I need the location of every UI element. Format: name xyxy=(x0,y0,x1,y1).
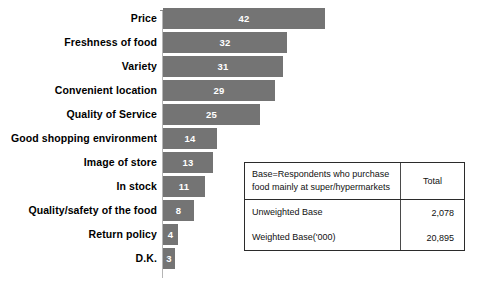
bar-value-label: 29 xyxy=(214,86,225,96)
bar: 8 xyxy=(163,200,194,221)
bar-value-label: 11 xyxy=(179,182,189,192)
bar-row: Quality of Service 25 xyxy=(0,104,483,128)
bar-track: 32 xyxy=(163,32,483,53)
bar-value-label: 13 xyxy=(183,158,194,168)
bar-row: Good shopping environment 14 xyxy=(0,128,483,152)
category-label: Variety xyxy=(0,56,157,77)
category-label: Freshness of food xyxy=(0,32,157,53)
bar: 14 xyxy=(163,128,217,149)
bar-value-label: 14 xyxy=(185,134,196,144)
base-table-header-label: Base=Respondents who purchase food mainl… xyxy=(245,163,401,199)
base-table-row-label: Unweighted Base xyxy=(245,200,401,225)
category-label: In stock xyxy=(0,176,157,197)
base-table-header-line2: food mainly at super/hypermarkets xyxy=(252,181,396,194)
base-table-row-value: 2,078 xyxy=(401,200,464,225)
bar-value-label: 42 xyxy=(239,14,250,24)
bar-chart-figure: Price 42 Freshness of food 32 Variety 31 xyxy=(0,0,483,285)
bar: 4 xyxy=(163,224,178,245)
category-label: Return policy xyxy=(0,224,157,245)
bar-value-label: 31 xyxy=(218,62,229,72)
base-table: Base=Respondents who purchase food mainl… xyxy=(244,162,465,251)
category-label: Quality/safety of the food xyxy=(0,200,157,221)
base-table-header-line1: Base=Respondents who purchase xyxy=(252,168,396,181)
bar-value-label: 25 xyxy=(206,110,217,120)
base-table-row: Weighted Base('000) 20,895 xyxy=(245,225,464,250)
bar-value-label: 8 xyxy=(176,206,181,216)
bar-value-label: 3 xyxy=(166,254,171,264)
category-label: Quality of Service xyxy=(0,104,157,125)
bar: 3 xyxy=(163,248,175,269)
category-label: D.K. xyxy=(0,248,157,269)
category-label: Convenient location xyxy=(0,80,157,101)
bar-track: 25 xyxy=(163,104,483,125)
category-label: Good shopping environment xyxy=(0,128,157,149)
bar-track: 14 xyxy=(163,128,483,149)
bar-row: Variety 31 xyxy=(0,56,483,80)
bar-track: 42 xyxy=(163,8,483,29)
base-table-row-value: 20,895 xyxy=(401,225,464,250)
bar: 31 xyxy=(163,56,283,77)
bar: 32 xyxy=(163,32,287,53)
bar-row: Convenient location 29 xyxy=(0,80,483,104)
bar: 11 xyxy=(163,176,205,197)
bar: 25 xyxy=(163,104,260,125)
base-table-header-row: Base=Respondents who purchase food mainl… xyxy=(245,163,464,200)
bar-track: 31 xyxy=(163,56,483,77)
category-label: Price xyxy=(0,8,157,29)
base-table-row-label: Weighted Base('000) xyxy=(245,225,401,250)
bar: 13 xyxy=(163,152,213,173)
bar-row: Freshness of food 32 xyxy=(0,32,483,56)
base-table-row: Unweighted Base 2,078 xyxy=(245,200,464,225)
category-label: Image of store xyxy=(0,152,157,173)
bar: 42 xyxy=(163,8,325,29)
bar-value-label: 4 xyxy=(168,230,173,240)
bar-value-label: 32 xyxy=(220,38,231,48)
bar-row: D.K. 3 xyxy=(0,248,483,272)
bar: 29 xyxy=(163,80,275,101)
bar-track: 29 xyxy=(163,80,483,101)
base-table-header-total: Total xyxy=(401,163,464,199)
bar-row: Price 42 xyxy=(0,8,483,32)
